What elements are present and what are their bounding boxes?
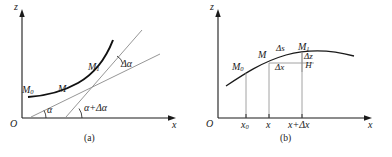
panel-a-point-label-M: M <box>58 84 66 94</box>
x-axis <box>22 115 176 120</box>
curve <box>226 51 354 86</box>
panel-b-M-base: M <box>258 49 266 60</box>
panel-b-caption: (b) <box>280 133 291 143</box>
x-axis-ticks <box>246 114 302 118</box>
panel-a-caption: (a) <box>84 133 95 143</box>
panel-b-M0-subscript: 0 <box>240 65 243 72</box>
panel-b-fraction-delta-z-over-H: Δz H <box>304 52 313 71</box>
panel-a-angle-label-delta-alpha: Δα <box>121 59 132 69</box>
panel-a-M-base: M <box>58 83 66 94</box>
panel-b-x-axis-label: x <box>368 120 372 130</box>
panel-b-origin-label: O <box>206 119 213 129</box>
panel-b-drawing <box>196 0 392 157</box>
panel-b-xtick-label-x-plus-delta-x: x+Δx <box>288 120 310 130</box>
panel-a-M0-subscript: 0 <box>30 88 33 95</box>
figure-sheet: z x O M0 M M1 α α+Δα Δα (a) <box>0 0 392 157</box>
angle-arc-alpha-plus-delta-alpha <box>79 109 82 119</box>
angle-arc-alpha <box>44 111 46 119</box>
panel-a-z-axis-label: z <box>14 2 18 12</box>
panel-a-angle-label-alpha-plus-delta-alpha: α+Δα <box>84 103 107 113</box>
panel-b-point-label-M0: M0 <box>232 62 244 73</box>
panel-a-x-axis-label: x <box>172 120 176 130</box>
panel-b-label-delta-x: Δx <box>275 63 284 72</box>
panel-b-z-axis-label: z <box>210 2 214 12</box>
z-axis <box>215 9 220 118</box>
panel-b-fraction-denominator: H <box>304 61 313 70</box>
panel-b-xtick-label-x0: x0 <box>241 120 249 131</box>
panel-b-xtick-label-x: x <box>266 120 270 130</box>
curve <box>28 40 113 97</box>
panel-b: z x O M0 M M1 Δs Δx Δz H x0 x x+Δx <box>196 0 392 157</box>
panel-a-point-label-M1: M1 <box>88 62 100 73</box>
panel-b-point-label-M: M <box>258 50 266 60</box>
panel-a-M1-subscript: 1 <box>96 65 99 72</box>
panel-a: z x O M0 M M1 α α+Δα Δα (a) <box>0 0 196 157</box>
panel-a-origin-label: O <box>10 119 17 129</box>
panel-a-drawing <box>0 0 196 157</box>
z-axis <box>19 9 24 118</box>
panel-a-angle-label-alpha: α <box>47 105 52 115</box>
panel-b-label-delta-s: Δs <box>276 44 285 53</box>
panel-b-xtick-x0-subscript: 0 <box>245 123 248 130</box>
panel-a-point-label-M0: M0 <box>22 85 34 96</box>
